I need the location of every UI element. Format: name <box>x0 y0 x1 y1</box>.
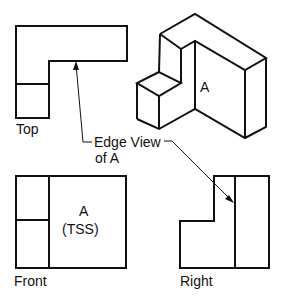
front-face-sublabel: (TSS) <box>62 222 99 236</box>
front-face-label: A <box>79 204 88 218</box>
arrowhead-icon <box>73 61 79 70</box>
edge-view-label: Edge View <box>94 135 161 149</box>
edge-view-leaders <box>73 61 234 203</box>
isometric-view <box>137 14 266 138</box>
right-view <box>180 176 269 268</box>
isometric-face-label: A <box>200 80 209 94</box>
top-view <box>16 26 127 118</box>
arrowhead-icon <box>225 195 234 203</box>
top-view-label: Top <box>16 122 39 136</box>
right-view-label: Right <box>180 274 213 288</box>
front-view-label: Front <box>14 274 47 288</box>
edge-view-sublabel: of A <box>95 151 119 165</box>
